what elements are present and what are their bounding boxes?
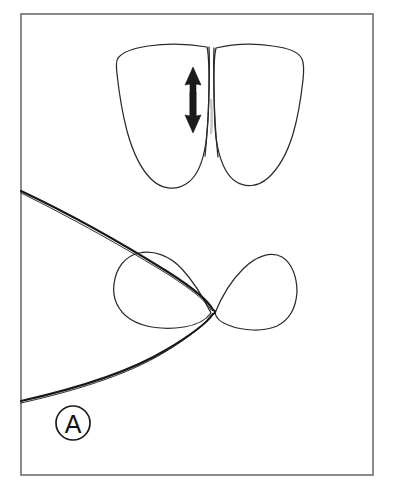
lower-section-group: [21, 191, 297, 403]
figure-panel: A: [0, 0, 396, 487]
right-cross-section-outline: [215, 254, 297, 330]
matrix-band-lower-highlight: [21, 315, 211, 403]
upper-teeth-group: [116, 44, 303, 188]
matrix-band-upper-highlight: [21, 193, 211, 310]
contact-point-shading: [211, 100, 212, 133]
panel-label-badge: A: [56, 406, 90, 440]
figure-canvas: A: [0, 0, 396, 487]
matrix-band-apex: [213, 310, 215, 314]
panel-label-text: A: [65, 410, 82, 438]
right-tooth-outline: [214, 44, 304, 185]
matrix-band-upper-limb: [21, 191, 213, 310]
left-cross-section-outline: [114, 252, 211, 328]
